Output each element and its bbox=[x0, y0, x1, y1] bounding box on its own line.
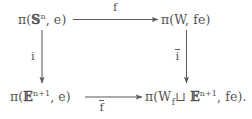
node-pi-disk: π(𝔼n+1, e) bbox=[10, 91, 71, 104]
sentence-terminator: . bbox=[242, 89, 246, 104]
disk-symbol: 𝔼 bbox=[190, 89, 200, 104]
edge-label-i: i bbox=[31, 51, 35, 63]
edge-label-f: f bbox=[113, 2, 117, 14]
edge-label-i-text: i bbox=[31, 49, 35, 63]
basepoint: , e bbox=[50, 89, 66, 104]
commutative-diagram: π(𝕊n, e) π(W, fe) π(𝔼n+1, e) π(Wf⊔ 𝔼n+1,… bbox=[0, 0, 252, 119]
disjoint-union-icon: ⊔ bbox=[176, 89, 187, 104]
disk-exponent: n+1 bbox=[33, 89, 50, 98]
disk-exponent: n+1 bbox=[200, 89, 217, 98]
w-symbol: W bbox=[174, 12, 185, 27]
disk-symbol: 𝔼 bbox=[23, 89, 33, 104]
edge-label-i-bar-text: i bbox=[175, 51, 180, 63]
edge-label-f-text: f bbox=[113, 0, 117, 14]
edge-label-i-bar: i bbox=[175, 51, 180, 63]
basepoint: , fe bbox=[217, 89, 237, 104]
close-paren: ) bbox=[66, 89, 71, 104]
basepoint: , e bbox=[46, 12, 62, 27]
edge-label-f-bar: f bbox=[99, 102, 104, 114]
close-paren: ) bbox=[61, 12, 66, 27]
close-paren: ) bbox=[205, 12, 210, 27]
node-pi-pushout: π(Wf⊔ 𝔼n+1, fe). bbox=[145, 91, 247, 104]
w-symbol: W bbox=[158, 89, 171, 104]
basepoint: , fe bbox=[185, 12, 205, 27]
node-pi-sphere: π(𝕊n, e) bbox=[18, 14, 66, 27]
node-pi-w: π(W, fe) bbox=[161, 14, 210, 27]
edge-label-f-bar-text: f bbox=[99, 102, 104, 114]
